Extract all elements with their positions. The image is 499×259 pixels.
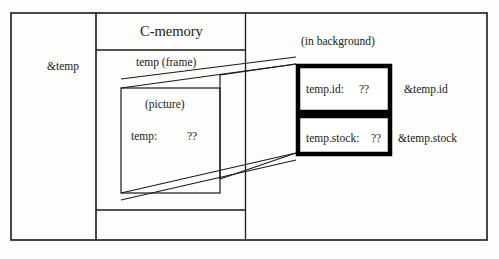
pointer-temp-label: &temp: [47, 61, 79, 73]
diagram-canvas: [0, 0, 499, 259]
temp-stock-field-value: ??: [371, 133, 381, 145]
memory-layout-diagram: &temp C-memory temp (frame) (picture) te…: [0, 0, 499, 259]
temp-id-pointer-label: &temp.id: [404, 84, 448, 96]
in-background-label: (in background): [301, 36, 375, 48]
perspective-rail-bottom: [121, 160, 296, 200]
temp-field-value: ??: [187, 131, 197, 143]
temp-stock-pointer-label: &temp.stock: [398, 133, 457, 145]
temp-id-field-name: temp.id:: [306, 84, 344, 96]
temp-frame-label: temp (frame): [136, 57, 196, 69]
figure-border: [11, 13, 487, 240]
c-memory-title: C-memory: [140, 24, 203, 39]
temp-stock-field-name: temp.stock:: [306, 133, 359, 145]
temp-field-name: temp:: [131, 131, 157, 143]
perspective-edge-bottom-front: [121, 153, 296, 193]
picture-label: (picture): [145, 99, 185, 111]
connector-bottom-rail: [220, 153, 296, 179]
temp-id-field-value: ??: [359, 84, 369, 96]
